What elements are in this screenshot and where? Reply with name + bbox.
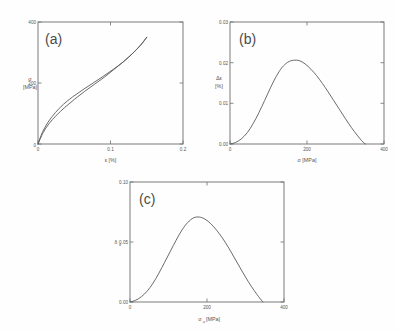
panel-b-xtick-label-0: 0 [229, 147, 232, 152]
panel-a-curve-loading [38, 37, 147, 144]
panel-c: 0.00 0.05 0.10 0 200 400 δ d σ a [MPa] (… [99, 168, 297, 331]
panel-a-tag: (a) [45, 31, 62, 47]
panel-b-ylabel-unit: [%] [215, 83, 223, 89]
panel-c-plot: 0.00 0.05 0.10 0 200 400 δ d σ a [MPa] (… [99, 168, 297, 331]
figure-canvas: 0 200 400 0 0.1 0.2 σ [MPa] ε [%] (a) [0, 0, 397, 331]
panel-a-xtick-label-02: 0.2 [180, 147, 187, 152]
panel-b-xtick-label-400: 400 [380, 147, 388, 152]
panel-b-curve-delta-epsilon [230, 60, 366, 144]
panel-c-xtick-label-200: 200 [203, 305, 211, 310]
panel-c-ylabel-subscript: d [119, 243, 121, 247]
panel-c-xlabel-subscript: a [203, 320, 205, 324]
panel-a-xtick-label-01: 0.1 [107, 147, 114, 152]
panel-b-ylabel-symbol: Δε [216, 75, 223, 81]
panel-b-ytick-label-001: 0.01 [219, 101, 228, 106]
panel-c-xtick-label-0: 0 [129, 305, 132, 310]
panel-b-xlabel: σ [MPa] [298, 157, 317, 163]
panel-b-xtick-label-200: 200 [303, 147, 311, 152]
panel-c-xlabel-symbol: σ [198, 316, 202, 322]
panel-c-ylabel-symbol: δ [115, 239, 118, 245]
panel-c-tag: (c) [139, 191, 155, 207]
panel-b-plot: 0.00 0.01 0.02 0.03 0 200 400 Δε [%] σ [… [199, 4, 397, 169]
panel-a-curve-unloading [38, 37, 147, 144]
panel-c-ytick-label-010: 0.10 [119, 180, 128, 185]
panel-b: 0.00 0.01 0.02 0.03 0 200 400 Δε [%] σ [… [199, 4, 397, 169]
panel-c-curve-damping [130, 217, 263, 302]
panel-b-ytick-label-002: 0.02 [219, 61, 228, 66]
panel-b-ytick-label-003: 0.03 [219, 20, 228, 25]
panel-a: 0 200 400 0 0.1 0.2 σ [MPa] ε [%] (a) [0, 4, 198, 169]
panel-a-xlabel: ε [%] [105, 157, 117, 163]
panel-a-ylabel-unit: [MPa] [23, 84, 38, 90]
panel-c-ytick-label-000: 0.00 [119, 300, 128, 305]
panel-a-plot: 0 200 400 0 0.1 0.2 σ [MPa] ε [%] (a) [0, 4, 198, 169]
panel-c-xlabel-unit: [MPa] [206, 316, 221, 322]
panel-b-tag: (b) [239, 31, 256, 47]
panel-c-xtick-label-400: 400 [280, 305, 288, 310]
panel-a-ytick-label-400: 400 [28, 20, 36, 25]
panel-a-xtick-label-0: 0 [37, 147, 40, 152]
panel-b-ytick-label-000: 0.00 [219, 142, 228, 147]
